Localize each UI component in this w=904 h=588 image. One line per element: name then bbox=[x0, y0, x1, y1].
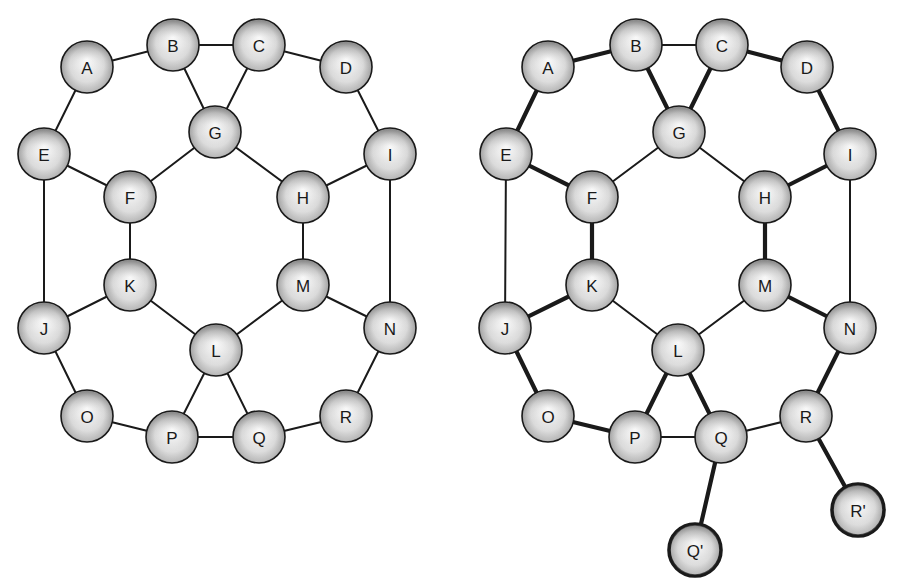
node-q2: Q' bbox=[669, 524, 721, 576]
node-label: Q' bbox=[687, 542, 703, 561]
node-label: F bbox=[125, 189, 135, 208]
node-label: M bbox=[296, 277, 310, 296]
node-r: R bbox=[780, 390, 832, 442]
node-label: J bbox=[501, 320, 510, 339]
node-p: P bbox=[146, 411, 198, 463]
node-label: D bbox=[801, 59, 813, 78]
node-label: E bbox=[38, 146, 49, 165]
node-o: O bbox=[522, 390, 574, 442]
node-label: N bbox=[384, 320, 396, 339]
node-a: A bbox=[522, 41, 574, 93]
node-label: H bbox=[297, 189, 309, 208]
node-label: K bbox=[586, 277, 598, 296]
node-m: M bbox=[739, 259, 791, 311]
node-r: R bbox=[320, 390, 372, 442]
node-label: Q bbox=[252, 429, 265, 448]
node-label: I bbox=[848, 146, 853, 165]
nodes: ABCDEGIFHKMJLNOPQR bbox=[18, 19, 416, 463]
node-h: H bbox=[277, 171, 329, 223]
node-label: G bbox=[208, 124, 221, 143]
node-label: Q bbox=[714, 429, 727, 448]
node-h: H bbox=[739, 171, 791, 223]
node-label: R bbox=[340, 408, 352, 427]
node-f: F bbox=[566, 171, 618, 223]
node-label: L bbox=[673, 342, 682, 361]
node-label: B bbox=[630, 37, 641, 56]
node-label: G bbox=[672, 124, 685, 143]
node-g: G bbox=[189, 106, 241, 158]
node-f: F bbox=[104, 171, 156, 223]
node-j: J bbox=[479, 302, 531, 354]
node-label: A bbox=[542, 59, 554, 78]
node-label: J bbox=[40, 320, 49, 339]
node-l: L bbox=[652, 324, 704, 376]
node-l: L bbox=[190, 324, 242, 376]
node-label: P bbox=[166, 429, 177, 448]
node-label: E bbox=[500, 146, 511, 165]
node-e: E bbox=[18, 128, 70, 180]
node-o: O bbox=[61, 390, 113, 442]
node-label: O bbox=[541, 408, 554, 427]
node-e: E bbox=[480, 128, 532, 180]
node-label: O bbox=[80, 408, 93, 427]
node-c: C bbox=[233, 19, 285, 71]
node-label: C bbox=[253, 37, 265, 56]
node-label: F bbox=[587, 189, 597, 208]
node-d: D bbox=[781, 41, 833, 93]
node-label: I bbox=[388, 146, 393, 165]
graph-right: ABCDEGIFHKMJLNOPQRQ'R' bbox=[479, 19, 884, 576]
node-i: I bbox=[824, 128, 876, 180]
node-r2: R' bbox=[832, 484, 884, 536]
node-i: I bbox=[364, 128, 416, 180]
node-c: C bbox=[696, 19, 748, 71]
node-label: N bbox=[844, 320, 856, 339]
node-label: C bbox=[716, 37, 728, 56]
node-label: R bbox=[800, 408, 812, 427]
node-k: K bbox=[104, 259, 156, 311]
node-j: J bbox=[18, 302, 70, 354]
node-n: N bbox=[824, 302, 876, 354]
node-label: R' bbox=[850, 502, 866, 521]
node-label: L bbox=[211, 342, 220, 361]
node-d: D bbox=[320, 41, 372, 93]
node-b: B bbox=[610, 19, 662, 71]
node-k: K bbox=[566, 259, 618, 311]
node-q: Q bbox=[233, 411, 285, 463]
node-label: H bbox=[759, 189, 771, 208]
node-m: M bbox=[277, 259, 329, 311]
node-label: P bbox=[629, 429, 640, 448]
graph-left: ABCDEGIFHKMJLNOPQR bbox=[18, 19, 416, 463]
node-b: B bbox=[147, 19, 199, 71]
node-label: M bbox=[758, 277, 772, 296]
node-label: K bbox=[124, 277, 136, 296]
edges bbox=[44, 45, 390, 437]
node-label: D bbox=[340, 59, 352, 78]
node-a: A bbox=[61, 41, 113, 93]
node-g: G bbox=[653, 106, 705, 158]
node-label: A bbox=[81, 59, 93, 78]
node-n: N bbox=[364, 302, 416, 354]
graph-diagram-canvas: ABCDEGIFHKMJLNOPQR ABCDEGIFHKMJLNOPQRQ'R… bbox=[0, 0, 904, 588]
node-q: Q bbox=[695, 411, 747, 463]
node-p: P bbox=[609, 411, 661, 463]
node-label: B bbox=[167, 37, 178, 56]
